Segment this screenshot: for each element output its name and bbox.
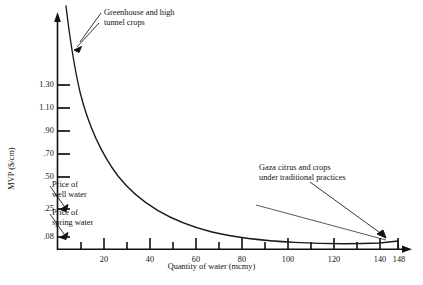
- y-axis-arrowhead: [54, 12, 61, 22]
- y-tick-label-0-70: .70: [14, 149, 54, 158]
- annotation-gaza-traditional: Gaza citrus and crops under traditional …: [259, 163, 346, 184]
- demand-curve: [66, 6, 398, 244]
- chart-canvas: [0, 0, 423, 285]
- x-axis-arrowhead: [402, 246, 412, 253]
- x-axis-title: Quantity of water (mcmy): [0, 262, 423, 271]
- annotation-greenhouse-crops: Greenhouse and high tunnel crops: [104, 8, 175, 29]
- y-tick-label-0-08: .08: [14, 232, 54, 241]
- y-axis-title: MVP ($/cm): [7, 126, 16, 212]
- leader-greenhouse-arrow: [74, 47, 82, 53]
- demand-curve-tail: [398, 241, 399, 249]
- y-tick-label-0-25: .25: [14, 204, 54, 213]
- y-tick-label-1-30: 1.30: [14, 80, 54, 89]
- annotation-leaders: [50, 13, 386, 240]
- annotation-price-spring-water: Price of spring water: [52, 208, 93, 229]
- y-tick-label-1-10: 1.10: [14, 103, 54, 112]
- leader-greenhouse-upper: [80, 13, 101, 42]
- chart-figure: 1.30 1.10 .90 .70 .50 .25 .08 20 40 60 8…: [0, 0, 423, 285]
- leader-greenhouse: [77, 23, 99, 47]
- leader-gaza: [310, 182, 383, 235]
- y-tick-label-0-50: .50: [14, 172, 54, 181]
- y-tick-label-0-90: .90: [14, 126, 54, 135]
- annotation-price-well-water: Price of well water: [52, 180, 87, 201]
